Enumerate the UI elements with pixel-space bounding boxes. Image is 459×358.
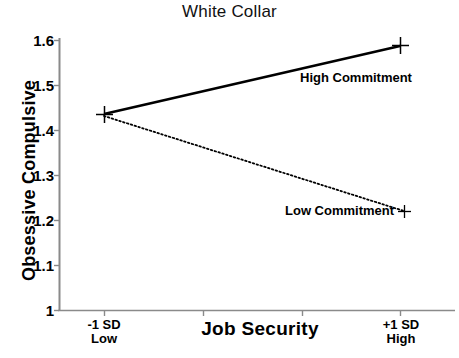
series-line-low-commitment	[104, 116, 404, 211]
series-line-high-commitment	[104, 46, 400, 114]
plot-area	[0, 0, 459, 358]
chart-figure: White Collar Obsessive Compulsive Job Se…	[0, 0, 459, 358]
marker-low-x-shared	[96, 106, 113, 123]
marker-low-commitment-right	[398, 205, 411, 218]
y-axis-ticks	[54, 41, 59, 311]
marker-high-commitment-right	[392, 37, 409, 54]
